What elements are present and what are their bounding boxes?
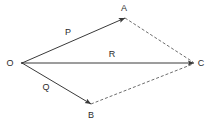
construction-lines-group: [91, 18, 193, 104]
vertex-label-o: O: [6, 59, 13, 68]
construction-line-ac: [125, 18, 193, 62]
vector-label-p: P: [65, 28, 71, 37]
vertex-label-b: B: [88, 111, 94, 120]
vertex-label-a: A: [121, 4, 127, 13]
vector-label-r: R: [109, 50, 116, 59]
vector-arrow-q: [22, 63, 91, 104]
vector-diagram-figure: O A B C P R Q: [0, 0, 212, 124]
construction-line-bc: [91, 64, 193, 104]
vertex-label-c: C: [198, 59, 205, 68]
vector-diagram-canvas: [0, 0, 212, 124]
origin-dot: [21, 62, 23, 64]
vector-label-q: Q: [42, 83, 49, 92]
origin-dot-group: [21, 62, 23, 64]
